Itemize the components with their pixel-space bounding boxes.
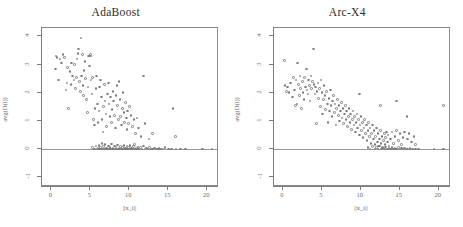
data-point — [134, 132, 137, 135]
data-point — [330, 104, 333, 107]
data-point — [406, 115, 409, 118]
data-point — [91, 76, 94, 79]
data-point — [127, 122, 130, 125]
data-point — [335, 107, 338, 110]
data-point — [352, 110, 355, 113]
data-point — [345, 110, 348, 113]
data-point — [151, 132, 154, 135]
data-point — [291, 96, 294, 99]
x-tick-label: 15 — [164, 191, 171, 198]
data-point — [395, 129, 398, 132]
plot-area — [41, 27, 218, 186]
data-point — [397, 139, 400, 142]
data-point — [142, 75, 145, 78]
data-point — [140, 135, 143, 138]
data-point — [101, 118, 104, 121]
x-tick-label: 5 — [88, 191, 91, 198]
x-tick — [282, 186, 283, 190]
data-point — [403, 131, 406, 134]
y-tick — [37, 35, 41, 36]
data-point — [354, 131, 357, 134]
data-point — [353, 115, 356, 118]
data-point — [391, 131, 394, 134]
data-point — [342, 107, 345, 110]
data-point — [359, 124, 362, 127]
data-point — [389, 138, 392, 141]
data-point — [293, 89, 296, 92]
data-point — [307, 79, 310, 82]
panel-title: Arc-X4 — [232, 6, 463, 18]
data-point — [65, 89, 68, 92]
data-point — [300, 107, 303, 110]
data-point — [303, 76, 306, 79]
data-point — [114, 127, 117, 130]
data-point — [69, 70, 72, 73]
data-point — [338, 104, 341, 107]
data-point — [102, 105, 105, 108]
data-point — [322, 98, 325, 101]
x-axis-line — [273, 186, 450, 187]
data-point — [379, 104, 382, 107]
data-point — [126, 128, 129, 131]
data-point — [130, 114, 133, 117]
data-point — [122, 91, 125, 94]
y-tick-label: 1 — [23, 118, 30, 121]
data-point — [402, 136, 405, 139]
x-tick — [206, 186, 207, 190]
data-point — [97, 121, 100, 124]
data-point — [314, 86, 317, 89]
x-tick-label: 10 — [125, 191, 132, 198]
data-point — [379, 129, 382, 132]
data-point — [326, 103, 329, 106]
y-tick-label: 3 — [23, 62, 30, 65]
data-point — [116, 104, 119, 107]
data-point — [126, 110, 129, 113]
y-tick — [269, 176, 273, 177]
y-tick-label: 0 — [23, 146, 30, 149]
x-tick — [167, 186, 168, 190]
data-point — [381, 135, 384, 138]
y-tick — [269, 35, 273, 36]
y-tick-label: 2 — [23, 90, 30, 93]
plot-area — [273, 27, 450, 186]
x-tick — [438, 186, 439, 190]
figure-two-panel-scatter: AdaBoost0510152043210-1||x_i||avg(D(i))A… — [0, 0, 463, 227]
data-point — [110, 121, 113, 124]
data-point — [93, 124, 96, 127]
data-point — [119, 98, 122, 101]
data-point — [384, 136, 387, 139]
x-tick-label: 20 — [435, 191, 442, 198]
data-point — [392, 142, 395, 145]
data-point — [325, 90, 328, 93]
x-axis-label: ||x_i|| — [273, 204, 450, 211]
x-tick-label: 5 — [319, 191, 322, 198]
x-tick-label: 10 — [357, 191, 364, 198]
data-point — [174, 135, 177, 138]
data-point — [123, 111, 126, 114]
data-point — [95, 87, 98, 90]
data-point — [77, 48, 80, 51]
data-point — [71, 75, 74, 78]
x-axis-line — [41, 186, 218, 187]
data-point — [84, 60, 87, 63]
data-point — [98, 86, 101, 89]
data-point — [67, 107, 70, 110]
data-point — [317, 82, 320, 85]
data-point — [98, 110, 101, 113]
data-point — [81, 53, 84, 56]
data-point — [370, 132, 373, 135]
data-point — [324, 108, 327, 111]
data-point — [59, 58, 62, 61]
data-point — [373, 129, 376, 132]
data-point — [299, 87, 302, 90]
y-tick-label: 2 — [255, 90, 262, 93]
data-point — [92, 118, 95, 121]
y-tick — [37, 176, 41, 177]
data-point — [172, 107, 175, 110]
x-tick-label: 0 — [49, 191, 52, 198]
data-point — [297, 83, 300, 86]
data-point — [75, 76, 78, 79]
data-point — [306, 89, 309, 92]
data-point — [125, 117, 128, 120]
data-point — [298, 94, 301, 97]
